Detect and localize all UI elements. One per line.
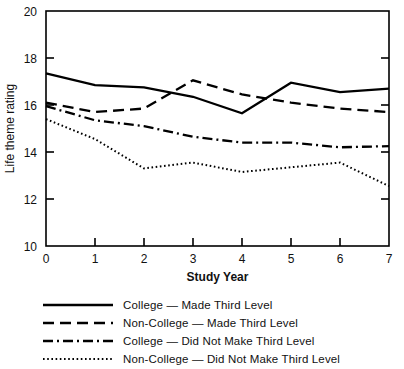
y-tick-label: 18 — [24, 52, 38, 66]
x-tick-label: 1 — [92, 252, 99, 266]
y-tick-label: 14 — [24, 146, 38, 160]
legend-item-college-made-third-level: College — Made Third Level — [0, 296, 404, 314]
chart-legend: College — Made Third Level Non-College —… — [0, 296, 404, 369]
legend-swatch-solid-line — [42, 298, 114, 312]
y-tick-label: 20 — [24, 5, 38, 19]
x-tick-label: 7 — [386, 252, 393, 266]
x-tick-label: 0 — [43, 252, 50, 266]
x-tick-label: 6 — [337, 252, 344, 266]
x-tick-label: 4 — [239, 252, 246, 266]
legend-item-non-college-made-third-level: Non-College — Made Third Level — [0, 314, 404, 332]
x-axis-title: Study Year — [187, 270, 249, 284]
legend-swatch-dash-dot-line — [42, 334, 114, 348]
legend-swatch-dashed-line — [42, 316, 114, 330]
legend-item-college-did-not-make-third-level: College — Did Not Make Third Level — [0, 332, 404, 350]
legend-swatch-dotted-line — [42, 352, 114, 366]
y-tick-label: 10 — [24, 240, 38, 254]
legend-item-non-college-did-not-make-third-level: Non-College — Did Not Make Third Level — [0, 350, 404, 368]
y-tick-label: 16 — [24, 99, 38, 113]
series-line-3 — [46, 119, 389, 186]
y-axis-title: Life theme rating — [3, 84, 17, 173]
x-tick-label: 3 — [190, 252, 197, 266]
chart-plot-area: 10121416182001234567Study YearLife theme… — [0, 0, 404, 285]
y-tick-label: 12 — [24, 193, 38, 207]
legend-label-non-college-did-not-make-third-level: Non-College — Did Not Make Third Level — [123, 353, 340, 365]
x-tick-label: 5 — [288, 252, 295, 266]
series-line-0 — [46, 73, 389, 113]
legend-label-college-did-not-make-third-level: College — Did Not Make Third Level — [123, 335, 315, 347]
legend-label-college-made-third-level: College — Made Third Level — [123, 299, 272, 311]
x-tick-label: 2 — [141, 252, 148, 266]
plot-frame — [46, 11, 389, 246]
line-chart-svg: 10121416182001234567Study YearLife theme… — [0, 0, 404, 285]
life-theme-rating-figure: 10121416182001234567Study YearLife theme… — [0, 0, 404, 369]
legend-label-non-college-made-third-level: Non-College — Made Third Level — [123, 317, 298, 329]
